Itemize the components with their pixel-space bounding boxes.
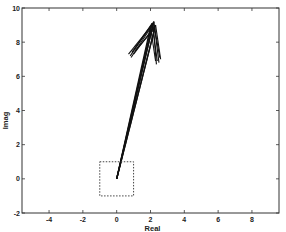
chart: -4-202468 -20246810 Real Imag xyxy=(0,0,286,232)
x-tick-label: 0 xyxy=(115,216,119,223)
y-tick-label: 4 xyxy=(16,107,20,114)
x-tick-label: -4 xyxy=(46,216,52,223)
x-tick-label: 4 xyxy=(182,216,186,223)
y-tick-label: 6 xyxy=(16,73,20,80)
y-tick-label: 10 xyxy=(12,5,20,12)
y-tick-label: 0 xyxy=(16,175,20,182)
x-tick-label: 8 xyxy=(250,216,254,223)
x-tick-label: 6 xyxy=(216,216,220,223)
plot-background xyxy=(0,0,286,232)
y-axis-label: Imag xyxy=(1,111,10,129)
x-axis-label: Real xyxy=(145,224,161,232)
y-tick-label: 2 xyxy=(16,141,20,148)
y-tick-label: 8 xyxy=(16,39,20,46)
x-tick-label: 2 xyxy=(149,216,153,223)
y-tick-label: -2 xyxy=(14,210,20,217)
x-tick-label: -2 xyxy=(80,216,86,223)
